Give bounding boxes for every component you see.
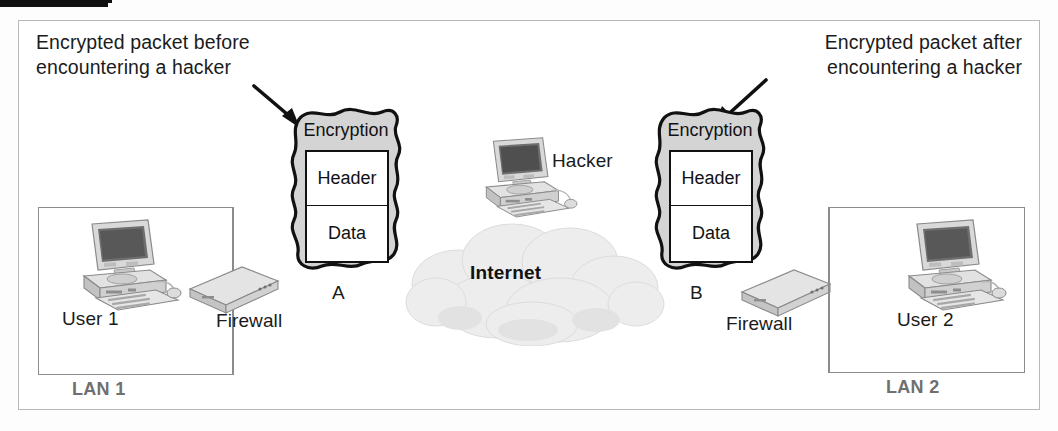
firewall1-label: Firewall: [216, 310, 282, 332]
packet-left-header-field: Header: [305, 150, 389, 206]
firewall2-label: Firewall: [726, 313, 792, 335]
callout-left-text: Encrypted packet before encountering a h…: [36, 30, 250, 80]
firewall2-icon: [738, 266, 834, 318]
link-a-label: A: [332, 282, 345, 304]
diagram-canvas: Encrypted packet before encountering a h…: [0, 0, 1058, 431]
user1-computer-icon: [70, 218, 190, 314]
user2-label: User 2: [897, 309, 954, 331]
encrypted-packet-after: Encryption Header Data: [646, 104, 774, 282]
link-b-label: B: [690, 282, 703, 304]
lan2-label: LAN 2: [886, 377, 940, 398]
packet-right-data-field: Data: [669, 205, 753, 263]
user1-label: User 1: [62, 308, 119, 330]
lan1-label: LAN 1: [72, 379, 126, 400]
encrypted-packet-before: Encryption Header Data: [282, 104, 410, 282]
user2-computer-icon: [895, 218, 1015, 314]
packet-left-data-field: Data: [305, 205, 389, 263]
link-b-wire: [0, 3, 108, 6]
internet-label: Internet: [470, 262, 541, 284]
hacker-label: Hacker: [552, 150, 613, 172]
packet-right-header-field: Header: [669, 150, 753, 206]
hacker-computer-icon: [474, 136, 580, 220]
callout-right-text: Encrypted packet after encountering a ha…: [825, 30, 1022, 80]
firewall1-icon: [186, 263, 282, 315]
